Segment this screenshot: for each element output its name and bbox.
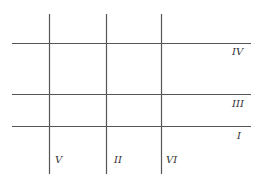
label-iv: IV <box>232 47 243 57</box>
label-ii: II <box>114 155 122 165</box>
label-v: V <box>55 155 62 165</box>
label-iii: III <box>232 99 244 109</box>
label-i: I <box>237 131 241 141</box>
grid-lines <box>0 0 259 182</box>
label-vi: VI <box>166 155 177 165</box>
grid-diagram: V II VI IV III I <box>0 0 259 182</box>
